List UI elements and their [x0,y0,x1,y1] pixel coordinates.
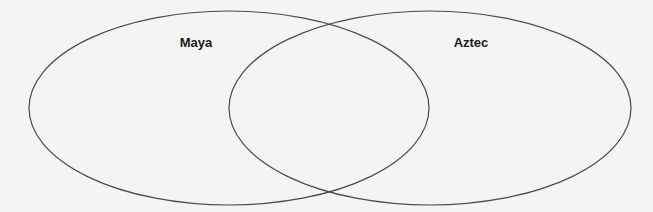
maya-label: Maya [180,35,213,50]
aztec-ellipse [229,11,631,205]
venn-diagram [0,0,653,212]
aztec-label: Aztec [454,35,489,50]
